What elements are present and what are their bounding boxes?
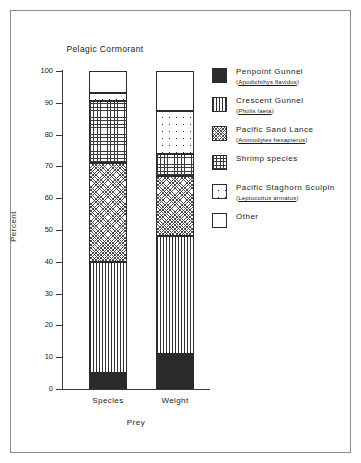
bar-segment xyxy=(156,154,194,176)
y-axis-tick xyxy=(56,230,62,231)
y-axis-tick xyxy=(56,198,62,199)
bar-segment xyxy=(156,111,194,154)
y-axis-tick-label: 20 xyxy=(26,324,53,325)
legend-item: Crescent Gunnel(Pholis laeta) xyxy=(212,95,358,124)
y-axis-tick-label: 90 xyxy=(26,102,53,103)
bar-segment xyxy=(89,163,127,262)
legend-common-name: Penpoint Gunnel xyxy=(236,66,358,77)
legend-item: Penpoint Gunnel(Apodichthys flavidus) xyxy=(212,66,358,95)
legend-text: Pacific Staghorn Sculpin(Leptocottus arm… xyxy=(236,182,358,203)
y-axis-tick xyxy=(56,325,62,326)
y-axis-tick-label: 60 xyxy=(26,197,53,198)
legend-item: Pacific Staghorn Sculpin(Leptocottus arm… xyxy=(212,182,358,211)
y-axis-tick-label: 40 xyxy=(26,261,53,262)
y-axis-tick xyxy=(56,103,62,104)
y-axis-tick-label: 80 xyxy=(26,134,53,135)
y-axis-tick-label: 50 xyxy=(26,229,53,230)
legend-scientific-name: (Pholis laeta) xyxy=(236,106,358,116)
legend-scientific-name: (Ammodytes hexapterus) xyxy=(236,135,358,145)
y-axis-tick xyxy=(56,71,62,72)
stacked-bar xyxy=(89,0,127,463)
bar-segment xyxy=(89,93,127,101)
bar-segment xyxy=(89,101,127,163)
legend-swatch xyxy=(212,184,227,199)
legend-item: Shrimp species xyxy=(212,153,358,182)
legend-swatch xyxy=(212,126,227,141)
bar-segment xyxy=(89,262,127,373)
legend-common-name: Shrimp species xyxy=(236,153,358,164)
legend-item: Pacific Sand Lance(Ammodytes hexapterus) xyxy=(212,124,358,153)
x-axis-category-label: Species xyxy=(73,396,143,405)
y-axis-line xyxy=(62,70,63,390)
legend-text: Other xyxy=(236,211,358,222)
legend-scientific-name: (Leptocottus armatus) xyxy=(236,193,358,203)
legend-common-name: Pacific Sand Lance xyxy=(236,124,358,135)
y-axis-tick-label: 10 xyxy=(26,356,53,357)
x-axis-category-label: Weight xyxy=(140,396,210,405)
y-axis-tick-label: 100 xyxy=(26,70,53,71)
bar-segment xyxy=(89,71,127,93)
y-axis-tick-label: 30 xyxy=(26,293,53,294)
legend-text: Crescent Gunnel(Pholis laeta) xyxy=(236,95,358,116)
bar-segment xyxy=(156,176,194,236)
figure-canvas: Pelagic Cormorant 0102030405060708090100… xyxy=(0,0,361,463)
y-axis-tick xyxy=(56,166,62,167)
legend-text: Penpoint Gunnel(Apodichthys flavidus) xyxy=(236,66,358,87)
y-axis-tick xyxy=(56,389,62,390)
y-axis-label: Percent xyxy=(9,192,18,262)
y-axis-tick-label: 70 xyxy=(26,165,53,166)
bar-segment xyxy=(89,373,127,389)
legend-common-name: Pacific Staghorn Sculpin xyxy=(236,182,358,193)
stacked-bar xyxy=(156,0,194,463)
bar-segment xyxy=(156,71,194,111)
y-axis-tick xyxy=(56,262,62,263)
legend-common-name: Other xyxy=(236,211,358,222)
y-axis-tick xyxy=(56,357,62,358)
bar-segment xyxy=(156,236,194,354)
legend-common-name: Crescent Gunnel xyxy=(236,95,358,106)
y-axis-tick-label: 0 xyxy=(26,388,53,389)
legend-text: Pacific Sand Lance(Ammodytes hexapterus) xyxy=(236,124,358,145)
legend-scientific-name: (Apodichthys flavidus) xyxy=(236,77,358,87)
bar-segment xyxy=(156,354,194,389)
legend-text: Shrimp species xyxy=(236,153,358,164)
legend-swatch xyxy=(212,155,227,170)
legend: Penpoint Gunnel(Apodichthys flavidus)Cre… xyxy=(212,66,358,240)
y-axis-tick xyxy=(56,294,62,295)
x-axis-label: Prey xyxy=(62,418,210,427)
legend-swatch xyxy=(212,97,227,112)
legend-item: Other xyxy=(212,211,358,240)
y-axis-tick xyxy=(56,135,62,136)
legend-swatch xyxy=(212,68,227,83)
legend-swatch xyxy=(212,213,227,228)
